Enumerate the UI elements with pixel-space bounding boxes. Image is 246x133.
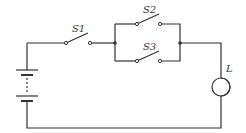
wire-left-bottom: [27, 96, 221, 128]
battery: [16, 70, 38, 101]
switch-s1: S1: [64, 23, 91, 45]
label-s3: S3: [143, 41, 156, 52]
circuit-diagram: S1 S2 S3 L: [0, 0, 246, 133]
wire-s2-out: [162, 24, 180, 61]
switch-s3: S3: [135, 41, 161, 63]
label-s2: S2: [143, 4, 156, 15]
switch-s2: S2: [135, 4, 161, 26]
lamp: L: [212, 63, 233, 96]
wire-top-right: [180, 43, 221, 78]
label-s1: S1: [72, 23, 85, 34]
label-lamp: L: [225, 63, 233, 74]
